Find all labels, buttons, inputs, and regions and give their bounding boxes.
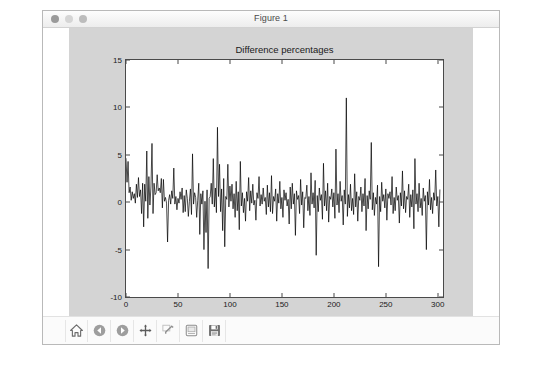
- y-tick-mark: [126, 107, 130, 108]
- x-tick-label: 100: [223, 300, 236, 309]
- x-tick-mark: [177, 60, 178, 64]
- y-tick-mark: [126, 249, 130, 250]
- y-tick-label: 15: [113, 56, 122, 65]
- x-tick-mark: [385, 60, 386, 64]
- x-tick-mark: [333, 293, 334, 297]
- y-tick-label: -5: [115, 245, 122, 254]
- configure-subplots-icon[interactable]: [180, 320, 203, 342]
- x-tick-mark: [437, 293, 438, 297]
- window-title: Figure 1: [43, 13, 499, 23]
- figure-window: Figure 1 Difference percentages -10-5051…: [42, 10, 500, 345]
- x-tick-mark: [437, 60, 438, 64]
- save-floppy-icon[interactable]: [203, 320, 226, 342]
- x-tick-mark: [126, 293, 127, 297]
- y-tick-mark: [126, 154, 130, 155]
- data-series-line: [126, 98, 440, 269]
- y-tick-mark: [126, 297, 130, 298]
- plot-title: Difference percentages: [126, 44, 443, 55]
- x-tick-label: 0: [124, 300, 128, 309]
- x-tick-label: 50: [174, 300, 183, 309]
- desktop-background: Figure 1 Difference percentages -10-5051…: [0, 0, 541, 365]
- figure-canvas: Difference percentages -10-5051015 05010…: [69, 28, 473, 318]
- navigation-toolbar: [43, 316, 499, 344]
- y-tick-mark: [126, 60, 130, 61]
- y-tick-mark: [439, 297, 443, 298]
- x-tick-label: 200: [327, 300, 340, 309]
- x-tick-label: 300: [431, 300, 444, 309]
- x-tick-mark: [229, 293, 230, 297]
- home-icon[interactable]: [65, 320, 88, 342]
- x-tick-mark: [333, 60, 334, 64]
- x-tick-label: 150: [275, 300, 288, 309]
- x-tick-mark: [385, 293, 386, 297]
- y-tick-mark: [126, 202, 130, 203]
- line-chart-svg: [126, 60, 443, 297]
- x-tick-mark: [229, 60, 230, 64]
- zoom-rect-icon[interactable]: [157, 320, 180, 342]
- plot-axes[interactable]: Difference percentages -10-5051015 05010…: [125, 59, 444, 298]
- move-cross-icon[interactable]: [134, 320, 157, 342]
- y-tick-label: 0: [118, 198, 122, 207]
- y-tick-label: 10: [113, 103, 122, 112]
- y-tick-mark: [439, 249, 443, 250]
- x-tick-mark: [281, 60, 282, 64]
- x-tick-mark: [177, 293, 178, 297]
- x-tick-mark: [281, 293, 282, 297]
- window-titlebar[interactable]: Figure 1: [43, 11, 499, 28]
- y-tick-mark: [439, 202, 443, 203]
- y-tick-mark: [439, 107, 443, 108]
- back-arrow-icon[interactable]: [88, 320, 111, 342]
- y-tick-mark: [439, 154, 443, 155]
- x-tick-label: 250: [379, 300, 392, 309]
- forward-arrow-icon[interactable]: [111, 320, 134, 342]
- y-tick-mark: [439, 60, 443, 61]
- y-tick-label: -10: [110, 293, 122, 302]
- x-tick-mark: [126, 60, 127, 64]
- y-tick-label: 5: [118, 150, 122, 159]
